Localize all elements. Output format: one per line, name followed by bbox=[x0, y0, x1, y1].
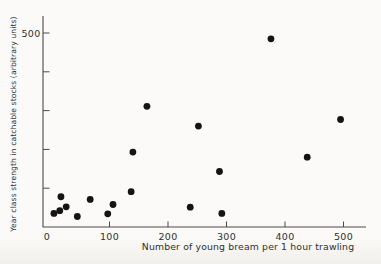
data-point bbox=[104, 210, 111, 217]
data-point bbox=[337, 116, 344, 123]
axis-frame bbox=[43, 16, 366, 227]
data-point bbox=[304, 154, 311, 161]
x-tick-label: 0 bbox=[44, 231, 50, 242]
data-point bbox=[268, 35, 275, 42]
data-point bbox=[187, 204, 194, 211]
data-point bbox=[216, 168, 223, 175]
data-point bbox=[56, 207, 63, 214]
data-point bbox=[87, 196, 94, 203]
scatter-figure: 5000100200300400500 Year class strength … bbox=[0, 0, 381, 264]
x-axis-label: Number of young bream per 1 hour trawlin… bbox=[142, 241, 354, 252]
data-point bbox=[218, 210, 225, 217]
scatter-plot-canvas: 5000100200300400500 bbox=[0, 0, 381, 264]
data-point bbox=[58, 193, 65, 200]
data-point bbox=[128, 188, 135, 195]
data-point bbox=[110, 201, 117, 208]
data-point bbox=[51, 210, 58, 217]
data-point bbox=[144, 103, 151, 110]
data-point bbox=[63, 203, 70, 210]
x-tick-label: 100 bbox=[100, 231, 119, 242]
y-axis-label: Year class strength in catchable stocks … bbox=[9, 16, 18, 231]
y-tick-label: 500 bbox=[21, 28, 40, 39]
data-point bbox=[195, 123, 202, 130]
data-point bbox=[74, 213, 81, 220]
data-point bbox=[130, 149, 137, 156]
